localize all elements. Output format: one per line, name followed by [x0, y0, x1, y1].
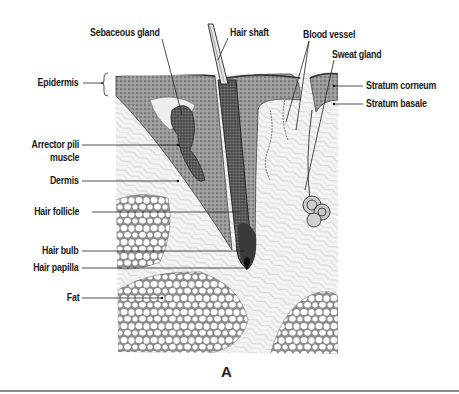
label-stratum-basale: Stratum basale [366, 98, 427, 110]
label-arrector-pili-muscle: muscle [50, 152, 79, 164]
label-stratum-corneum: Stratum corneum [366, 80, 436, 92]
label-epidermis: Epidermis [38, 77, 79, 89]
label-sweat-gland: Sweat gland [332, 49, 381, 61]
label-hair-shaft: Hair shaft [230, 27, 269, 39]
bottom-divider [0, 390, 459, 392]
skin-cross-section-illustration [0, 0, 459, 394]
label-sebaceous-gland: Sebaceous gland [90, 27, 160, 39]
label-arrector-pili: Arrector pili [31, 139, 79, 151]
label-dermis: Dermis [50, 175, 79, 187]
label-hair-follicle: Hair follicle [34, 206, 79, 218]
label-fat: Fat [66, 292, 79, 304]
label-blood-vessel: Blood vessel [303, 29, 355, 41]
label-hair-papilla: Hair papilla [34, 262, 79, 274]
fat-lobule-upper [116, 194, 170, 269]
figure-caption: A [221, 363, 232, 380]
hair-papilla [244, 257, 250, 267]
label-hair-bulb: Hair bulb [42, 245, 79, 257]
dermis-region [110, 70, 345, 360]
